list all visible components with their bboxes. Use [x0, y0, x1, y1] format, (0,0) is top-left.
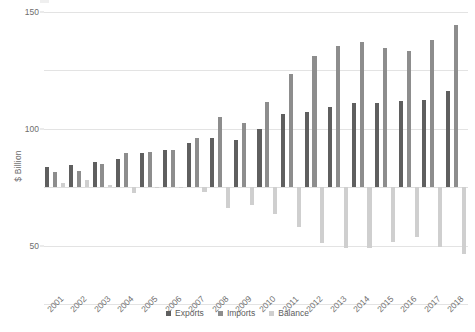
- bar-imports-2002: [77, 171, 81, 187]
- bar-imports-2014: [360, 42, 364, 187]
- bar-exports-2013: [328, 107, 332, 188]
- bar-chart: $ Billion 150100500-50-100 2001200220032…: [0, 0, 475, 332]
- bar-exports-2002: [69, 165, 73, 187]
- bar-exports-2016: [399, 101, 403, 187]
- bar-group: [233, 12, 257, 304]
- bar-exports-2001: [45, 167, 49, 187]
- bar-balance-2009: [250, 187, 254, 205]
- bar-balance-2013: [344, 187, 348, 248]
- bar-balance-2002: [85, 180, 89, 187]
- bar-group: [91, 12, 115, 304]
- legend-item-imports[interactable]: Imports: [218, 308, 255, 318]
- bar-group: [303, 12, 327, 304]
- bar-imports-2013: [336, 46, 340, 187]
- bar-imports-2018: [454, 25, 458, 187]
- bar-balance-2017: [438, 187, 442, 247]
- bar-balance-2016: [415, 187, 419, 237]
- bar-balance-2006: [179, 187, 183, 188]
- bar-groups: [44, 12, 468, 304]
- bar-balance-2008: [226, 187, 230, 208]
- bar-balance-2001: [61, 183, 65, 188]
- bar-imports-2006: [171, 150, 175, 187]
- bar-balance-2007: [202, 187, 206, 192]
- bar-group: [209, 12, 233, 304]
- bar-group: [138, 12, 162, 304]
- imports-swatch: [218, 311, 223, 316]
- bar-exports-2003: [93, 162, 97, 188]
- bar-balance-2005: [155, 187, 159, 188]
- bar-balance-2004: [132, 187, 136, 193]
- bar-balance-2018: [462, 187, 466, 254]
- y-tick-label: 150: [25, 7, 39, 17]
- bar-group: [256, 12, 280, 304]
- bar-balance-2012: [320, 187, 324, 243]
- bar-group: [115, 12, 139, 304]
- bar-exports-2017: [422, 100, 426, 188]
- bar-imports-2007: [195, 138, 199, 187]
- bar-imports-2010: [265, 102, 269, 187]
- top-crop-artifact: [40, 0, 49, 3]
- legend-label: Balance: [278, 308, 309, 318]
- bar-exports-2005: [140, 153, 144, 187]
- legend-label: Imports: [227, 308, 255, 318]
- bar-balance-2014: [367, 187, 371, 248]
- bar-imports-2012: [312, 56, 316, 187]
- gridline--100: -100: [44, 304, 468, 305]
- bar-exports-2008: [210, 138, 214, 187]
- bar-imports-2005: [148, 152, 152, 187]
- legend-label: Exports: [175, 308, 204, 318]
- y-tick-label: 100: [25, 124, 39, 134]
- bar-group: [445, 12, 469, 304]
- balance-swatch: [269, 311, 274, 316]
- bar-balance-2010: [273, 187, 277, 214]
- bar-imports-2011: [289, 74, 293, 187]
- bar-exports-2015: [375, 103, 379, 187]
- y-tick-label: 50: [30, 241, 39, 251]
- bar-imports-2016: [407, 51, 411, 188]
- bar-exports-2007: [187, 143, 191, 187]
- bar-balance-2003: [108, 185, 112, 187]
- y-axis-label: $ Billion: [13, 150, 23, 182]
- bar-exports-2018: [446, 91, 450, 187]
- bar-imports-2008: [218, 117, 222, 187]
- bar-imports-2004: [124, 153, 128, 187]
- bar-group: [350, 12, 374, 304]
- bar-group: [280, 12, 304, 304]
- bar-group: [68, 12, 92, 304]
- legend-item-exports[interactable]: Exports: [166, 308, 204, 318]
- bar-balance-2011: [297, 187, 301, 227]
- bar-exports-2012: [305, 112, 309, 187]
- bar-group: [397, 12, 421, 304]
- bar-imports-2009: [242, 123, 246, 187]
- bar-group: [44, 12, 68, 304]
- bar-group: [327, 12, 351, 304]
- bar-imports-2001: [53, 172, 57, 187]
- bar-group: [374, 12, 398, 304]
- bar-exports-2011: [281, 114, 285, 188]
- bar-exports-2010: [257, 129, 261, 187]
- bar-exports-2004: [116, 159, 120, 187]
- bar-exports-2009: [234, 140, 238, 187]
- bar-group: [421, 12, 445, 304]
- bar-exports-2006: [163, 150, 167, 187]
- exports-swatch: [166, 311, 171, 316]
- bar-imports-2003: [100, 164, 104, 187]
- bar-group: [185, 12, 209, 304]
- chart-legend: ExportsImportsBalance: [0, 308, 475, 318]
- bar-imports-2017: [430, 40, 434, 187]
- bar-exports-2014: [352, 103, 356, 187]
- bar-balance-2015: [391, 187, 395, 242]
- bar-group: [162, 12, 186, 304]
- plot-area: 150100500-50-100: [44, 12, 468, 304]
- bar-imports-2015: [383, 48, 387, 187]
- legend-item-balance[interactable]: Balance: [269, 308, 309, 318]
